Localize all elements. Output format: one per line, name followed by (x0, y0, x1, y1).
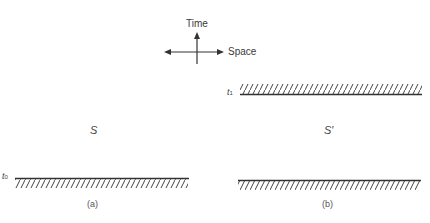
time-label-t1-subscript: 1 (230, 90, 233, 96)
panel-b-caption: (b) (322, 199, 333, 209)
panel-a-caption: (a) (87, 199, 98, 209)
frame-label-s: S (90, 124, 97, 136)
space-time-axes (164, 32, 224, 64)
time-label-t1: t1 (227, 87, 233, 97)
panel-a-boundary-t0 (15, 179, 189, 189)
time-label-t0-subscript: 0 (5, 174, 8, 180)
space-axis-label: Space (228, 46, 256, 57)
frame-label-s-prime: S′ (324, 124, 333, 136)
diagram-canvas (0, 0, 430, 223)
panel-b-boundary-t1 (240, 84, 422, 95)
panel-b-boundary-bottom (238, 181, 421, 191)
time-axis-label: Time (186, 18, 208, 29)
time-label-t0: t0 (2, 171, 8, 181)
